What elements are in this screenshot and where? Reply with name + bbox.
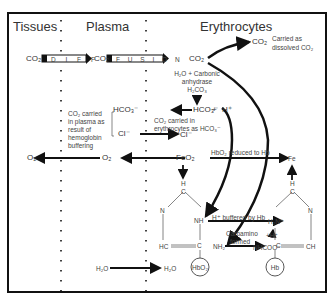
ring-right-c2: C: [276, 242, 281, 249]
ring-left-hc: HC: [159, 243, 168, 250]
carbonic-note-2: anhydrase: [172, 78, 222, 85]
co2-dissolved: CO₂: [252, 38, 267, 46]
hbo2-circle-label: HbO₂: [191, 264, 209, 271]
h-buffered-label: H⁺ buffered by Hb: [212, 214, 265, 221]
column-header-plasma: Plasma: [86, 20, 129, 33]
column-header-tissues: Tissues: [13, 20, 57, 33]
diffusion-letters-left: D I F F: [51, 56, 99, 63]
ring-right-h: H: [290, 180, 295, 187]
hb-circle-label: Hb: [266, 264, 284, 271]
ring-right-c: C: [290, 188, 295, 195]
h2o-erythrocyte: H₂O: [164, 265, 176, 272]
feo2: FeO₂: [176, 154, 195, 162]
fe-label: Fe: [288, 155, 296, 162]
dissolved-note-2: dissolved CO₂: [272, 44, 313, 51]
co2-erythrocyte: CO₂: [189, 55, 204, 63]
plasma-note-1: CO₂ carried: [68, 110, 102, 117]
ring-left-c2: C: [197, 242, 202, 249]
ring-right-h2n: H₂N⁺: [268, 218, 284, 225]
carbonic-note-3: H₂CO₃: [172, 86, 222, 93]
carbonic-note-1: H₂O + Carbonic: [172, 70, 222, 77]
ery-note-1: CO₂ carried in: [154, 117, 195, 124]
co2-plasma: CO₂: [94, 55, 109, 63]
co2-tissue: CO₂: [26, 55, 41, 63]
ring-left-nh: NH: [194, 217, 203, 224]
ring-right-n: N: [308, 207, 313, 214]
ring-left-nh2: NH₂: [213, 243, 225, 250]
hco3-plasma: HCO₃⁻: [113, 106, 138, 114]
carbamino-label-2: formed: [230, 238, 250, 245]
plasma-note-3: result of: [68, 126, 91, 133]
cl-erythrocyte: Cl⁻: [180, 131, 192, 139]
plus-sign: +: [212, 106, 217, 114]
dissolved-note-1: Carried as: [272, 35, 302, 42]
hbo2-reduced-label: HbO₂ reduced to Hb: [211, 149, 270, 156]
plasma-note-4: hemoglobin: [68, 134, 102, 141]
ring-left-h: H: [181, 180, 186, 187]
plasma-note-2: in plasma as: [68, 118, 105, 125]
cl-plasma: Cl⁻: [118, 130, 130, 138]
ring-right-ch: CH: [306, 243, 315, 250]
column-header-erythrocytes: Erythrocytes: [200, 20, 272, 33]
diffusion-letters-right: F U S I O N: [116, 56, 183, 63]
ring-left-n: N: [160, 207, 165, 214]
h2o-plasma: H₂O: [96, 265, 108, 272]
o2-tissue: O₂: [27, 154, 36, 162]
plasma-note-5: buffering: [68, 142, 93, 149]
carbamino-label-1: Carbamino: [226, 230, 258, 237]
ring-left-c: C: [181, 188, 186, 195]
h-plus-ion: H⁺: [222, 106, 232, 114]
o2-plasma: O₂: [102, 154, 111, 162]
h-plus-small: +H⁺: [266, 232, 279, 239]
